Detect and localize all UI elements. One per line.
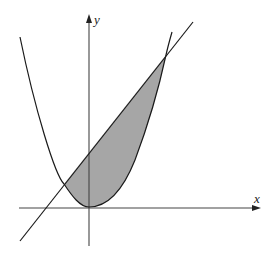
region-diagram: x y [0,0,275,255]
y-axis-arrow-icon [86,14,92,23]
shaded-region [64,55,166,207]
y-axis-label: y [92,12,100,27]
x-axis-label: x [253,191,260,206]
